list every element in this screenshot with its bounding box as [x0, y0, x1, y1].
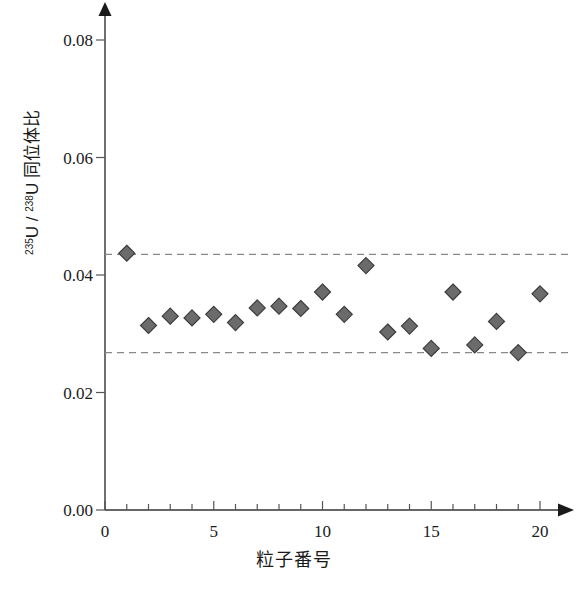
- data-point-marker: [532, 286, 548, 302]
- x-tick-label: 0: [101, 523, 110, 540]
- data-point-marker: [119, 245, 135, 261]
- data-point-marker: [467, 337, 483, 353]
- y-axis-title: 235U / 238U 同位体比: [18, 33, 43, 333]
- data-point-marker: [141, 318, 157, 334]
- data-point-marker: [423, 340, 439, 356]
- data-point-marker: [206, 306, 222, 322]
- data-point-marker: [271, 298, 287, 314]
- y-axis-arrow: [99, 2, 112, 16]
- data-point-marker: [293, 300, 309, 316]
- data-point-marker: [249, 300, 265, 316]
- y-tick-label: 0.00: [25, 502, 93, 519]
- x-tick-label: 10: [314, 523, 331, 540]
- data-point-marker: [162, 308, 178, 324]
- x-tick-label: 15: [423, 523, 440, 540]
- data-point-marker: [336, 306, 352, 322]
- y-axis-title-text: 235U / 238U 同位体比: [23, 110, 42, 255]
- data-point-marker: [510, 345, 526, 361]
- reference-lines-group: [105, 254, 570, 352]
- data-point-marker: [489, 313, 505, 329]
- x-tick-label: 20: [532, 523, 549, 540]
- data-point-marker: [445, 284, 461, 300]
- y-tick-label: 0.02: [25, 384, 93, 401]
- x-tick-label: 5: [210, 523, 219, 540]
- axes-group: [99, 2, 575, 517]
- data-points-group: [119, 245, 548, 360]
- data-point-marker: [380, 324, 396, 340]
- x-axis-arrow: [558, 504, 574, 517]
- data-point-marker: [228, 315, 244, 331]
- data-point-marker: [315, 284, 331, 300]
- data-point-marker: [184, 310, 200, 326]
- isotope-235-superscript: 235: [24, 238, 35, 255]
- data-point-marker: [358, 258, 374, 274]
- data-point-marker: [402, 318, 418, 334]
- scatter-chart-figure: 0.000.020.040.060.08 05101520 235U / 238…: [0, 0, 587, 589]
- x-axis-title: 粒子番号: [0, 545, 587, 571]
- ticks-group: [96, 40, 540, 510]
- isotope-238-superscript: 238: [24, 195, 35, 212]
